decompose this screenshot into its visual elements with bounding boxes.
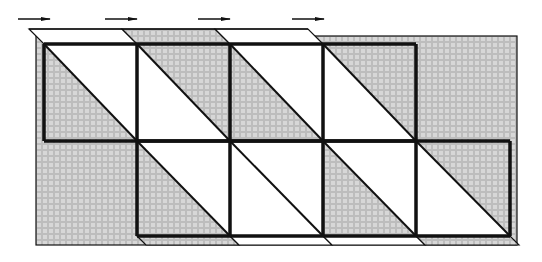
top-band-parallelogram — [122, 29, 230, 44]
top-band-parallelogram — [215, 29, 323, 44]
top-band-parallelogram — [29, 29, 137, 44]
diagram-canvas — [0, 0, 542, 262]
shear-tiling-diagram — [0, 0, 542, 262]
